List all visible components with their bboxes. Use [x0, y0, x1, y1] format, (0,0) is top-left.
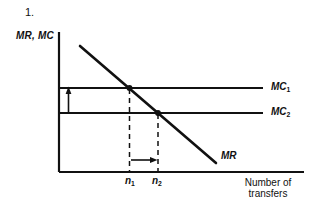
mr-label: MR	[221, 151, 237, 162]
y-axis-label: MR, MC	[16, 31, 54, 42]
n2-tick-label: n2	[152, 176, 162, 187]
right-arrow-icon	[131, 157, 158, 163]
mr-curve	[80, 46, 216, 163]
x-axis-label-line2: transfers	[249, 188, 288, 199]
mc1-label: MC1	[271, 82, 290, 93]
up-arrow-icon	[66, 87, 72, 113]
n2-label-subscript: 2	[158, 180, 162, 187]
x-axis-label-line1: Number of	[245, 177, 292, 188]
n1-tick-label: n1	[125, 176, 135, 187]
mc2-label: MC2	[271, 107, 290, 118]
mc1-label-base: MC	[271, 81, 287, 92]
mc2-label-base: MC	[271, 106, 287, 117]
figure-page: 1. MR, MC MC1 MC2 MR n1 n2 Number oftran…	[0, 0, 309, 212]
mc1-label-subscript: 1	[287, 86, 291, 93]
mc2-label-subscript: 2	[287, 111, 291, 118]
n1-label-subscript: 1	[131, 180, 135, 187]
item-number: 1.	[25, 7, 34, 19]
x-axis-label: Number oftransfers	[232, 178, 304, 199]
